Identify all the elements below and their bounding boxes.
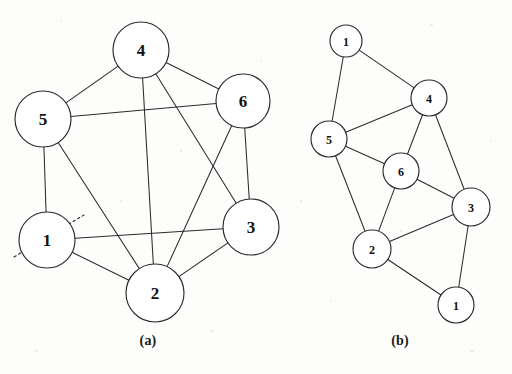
- edge-b-4-3: [435, 115, 464, 189]
- node-label-a-1: 1: [43, 231, 52, 250]
- scan-speck: [260, 60, 262, 62]
- nodes-layer: 4563121456321: [15, 22, 490, 323]
- node-a-6-2[interactable]: 6: [216, 74, 270, 128]
- node-label-a-3: 3: [247, 218, 256, 237]
- node-a-5-1[interactable]: 5: [15, 91, 71, 147]
- node-label-b-1: 1: [453, 299, 459, 313]
- edge-a-4-6: [166, 63, 219, 89]
- node-b-1-0[interactable]: 1: [330, 25, 362, 57]
- node-label-a-6: 6: [239, 92, 248, 111]
- figure-root: 4563121456321 (a) (b): [0, 0, 512, 374]
- edge-a-5-1: [44, 147, 46, 212]
- graph-figure-canvas: 4563121456321: [0, 0, 512, 374]
- scan-speck: [470, 350, 474, 352]
- node-a-4-0[interactable]: 4: [113, 22, 169, 78]
- scan-speck: [35, 350, 38, 352]
- edge-b-5-2: [336, 156, 366, 232]
- node-label-b-4: 4: [426, 92, 432, 106]
- node-label-b-5: 5: [326, 133, 332, 147]
- node-label-a-5: 5: [39, 110, 48, 129]
- scan-speck: [180, 150, 182, 152]
- scan-speck: [430, 24, 433, 26]
- node-label-b-6: 6: [398, 165, 404, 179]
- edge-a-5-4: [66, 66, 118, 103]
- edge-b-2-3: [389, 214, 453, 241]
- edge-b-6-3: [417, 179, 454, 198]
- edge-b-3-1: [459, 226, 468, 287]
- edge-b-2-1: [388, 260, 441, 295]
- node-b-2-5[interactable]: 2: [353, 230, 391, 268]
- edge-a-2-3: [179, 243, 228, 277]
- scan-speck: [210, 330, 213, 332]
- edge-a-1-2: [72, 252, 129, 280]
- scan-speck: [60, 20, 62, 22]
- node-b-1-6[interactable]: 1: [438, 287, 474, 323]
- edge-b-6-2: [379, 188, 395, 231]
- node-label-a-4: 4: [137, 41, 146, 60]
- node-b-5-2[interactable]: 5: [311, 121, 347, 157]
- scan-speck: [300, 200, 302, 202]
- node-b-6-3[interactable]: 6: [383, 153, 419, 189]
- node-label-b-2: 2: [369, 243, 375, 257]
- panel-caption-b: (b): [391, 333, 409, 349]
- edge-a-6-3: [245, 128, 250, 199]
- edge-b-4-6: [407, 115, 422, 154]
- edge-a-6-2: [167, 126, 232, 267]
- scan-speck: [330, 300, 332, 302]
- node-label-a-2: 2: [151, 284, 160, 303]
- node-a-3-3[interactable]: 3: [223, 199, 279, 255]
- node-a-1-4[interactable]: 1: [19, 212, 75, 268]
- node-label-b-3: 3: [468, 201, 474, 215]
- scan-speck: [120, 200, 122, 202]
- scan-speck: [490, 140, 492, 142]
- scan-speck: [400, 230, 402, 232]
- node-b-3-4[interactable]: 3: [452, 188, 490, 226]
- edge-b-1-5: [332, 57, 343, 122]
- edge-b-5-4: [346, 105, 413, 132]
- edge-b-5-6: [345, 146, 384, 163]
- node-label-b-1: 1: [343, 35, 349, 49]
- edge-b-1-4: [359, 50, 414, 88]
- node-a-2-5[interactable]: 2: [126, 264, 184, 322]
- node-b-4-1[interactable]: 4: [411, 80, 447, 116]
- edge-a-4-2: [143, 78, 154, 264]
- edge-a-5-6: [71, 103, 216, 116]
- panel-caption-a: (a): [140, 333, 157, 349]
- edge-a-1-3: [75, 229, 223, 238]
